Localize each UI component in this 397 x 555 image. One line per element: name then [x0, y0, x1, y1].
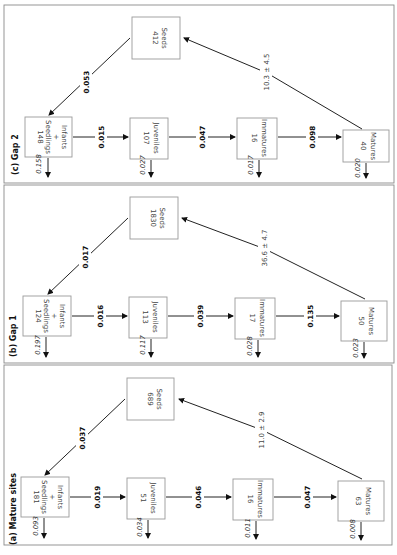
fecundity-rate: 36.6 ± 4.7: [261, 229, 269, 266]
immatures-label: Immatures: [256, 480, 264, 518]
seedlings-count: 148: [36, 130, 44, 143]
juveniles-count: 107: [142, 131, 150, 144]
mortality-matures: 0.023: [352, 338, 360, 357]
seeds-count: 1830: [149, 209, 157, 227]
arrow-fecundity: [182, 218, 365, 299]
immatures-count: 16: [250, 134, 258, 143]
seeds-label: Seeds: [160, 27, 168, 49]
panel-title: (a) Mature sites: [9, 473, 18, 545]
panel-border: [4, 365, 392, 545]
seeds-count: 412: [151, 31, 159, 44]
panel-gap-1: (b) Gap 1 1830 Seeds 124 Seedlings + Inf…: [4, 185, 394, 363]
arrow-fecundity: [184, 38, 362, 129]
matures-label: Matures: [369, 132, 377, 161]
mortality-matures: 0.008: [349, 519, 357, 539]
matures-label: Matures: [364, 487, 372, 516]
mortality-matures: 0.020: [354, 158, 362, 177]
seeds-label: Seeds: [158, 207, 166, 229]
rate-seedlings-to-juveniles: 0.019: [93, 486, 102, 509]
seedlings-plus: +: [48, 494, 56, 500]
seedlings-count: 124: [34, 309, 42, 323]
immatures-count: 17: [248, 314, 256, 323]
fecundity-rate: 10.3 ± 4.5: [263, 53, 271, 90]
mortality-juveniles: 0.034: [136, 517, 144, 536]
mortality-immatures: 0.028: [246, 336, 254, 356]
infants-label: Infants: [58, 304, 66, 328]
rate-immatures-to-matures: 0.135: [306, 305, 315, 328]
mortality-immatures: 0.011: [244, 518, 252, 537]
juveniles-label: Juveniles: [152, 121, 160, 154]
rate-seedlings-to-juveniles: 0.016: [96, 305, 105, 328]
panel-title: (b) Gap 1: [9, 315, 18, 357]
arrow-fecundity: [179, 399, 362, 479]
seedlings-count: 181: [32, 490, 40, 503]
juveniles-count: 51: [139, 494, 147, 503]
rate-seeds-to-seedlings: 0.037: [78, 427, 87, 450]
life-cycle-figure: (c) Gap 2 412 Seeds 148 Seedlings + Infa…: [0, 0, 397, 555]
panel-title: (c) Gap 2: [11, 134, 20, 175]
matures-label: Matures: [367, 307, 375, 336]
mortality-seedlings: 0.158: [35, 154, 43, 174]
rate-juveniles-to-immatures: 0.046: [194, 486, 203, 509]
panel-mature-sites: (a) Mature sites 689 Seeds 181 Seedlings…: [4, 365, 392, 545]
immatures-count: 16: [246, 495, 254, 504]
matures-count: 50: [357, 317, 365, 326]
fecundity-rate: 11.0 ± 2.9: [258, 411, 266, 448]
mortality-seedlings: 0.093: [32, 516, 40, 535]
rate-immatures-to-matures: 0.098: [308, 126, 317, 149]
matures-count: 63: [354, 497, 362, 506]
seedlings-plus: +: [52, 134, 60, 140]
seeds-count: 689: [146, 392, 154, 405]
immatures-label: Immatures: [258, 299, 266, 337]
seedlings-plus: +: [50, 313, 58, 319]
mortality-seedlings: 0.197: [34, 335, 42, 355]
infants-label: Infants: [56, 485, 64, 509]
rate-juveniles-to-immatures: 0.047: [198, 126, 207, 149]
seedlings-label: Seedlings: [40, 480, 48, 514]
matures-count: 40: [359, 142, 367, 151]
rate-immatures-to-matures: 0.047: [303, 486, 312, 509]
seedlings-label: Seedlings: [42, 299, 50, 333]
rate-seeds-to-seedlings: 0.017: [81, 246, 90, 269]
mortality-juveniles: 0.117: [139, 335, 147, 355]
juveniles-label: Juveniles: [149, 481, 157, 514]
mortality-immatures: 0.017: [247, 155, 255, 175]
juveniles-count: 113: [141, 310, 149, 323]
mortality-juveniles: 0.027: [139, 155, 147, 175]
rate-seeds-to-seedlings: 0.053: [82, 71, 91, 94]
panel-gap-2: (c) Gap 2 412 Seeds 148 Seedlings + Infa…: [4, 5, 394, 183]
seeds-label: Seeds: [155, 388, 163, 410]
rate-seedlings-to-juveniles: 0.015: [97, 126, 106, 149]
juveniles-label: Juveniles: [151, 300, 159, 333]
seedlings-label: Seedlings: [44, 120, 52, 154]
infants-label: Infants: [60, 125, 68, 149]
immatures-label: Immatures: [260, 119, 268, 157]
rate-juveniles-to-immatures: 0.039: [196, 305, 205, 328]
